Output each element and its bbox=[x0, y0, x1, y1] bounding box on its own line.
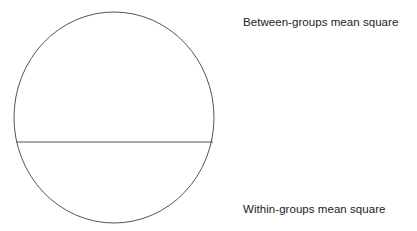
total-variance-circle bbox=[14, 12, 214, 223]
variance-partition-diagram bbox=[0, 0, 417, 231]
figure-root: Between-groups mean square Within-groups… bbox=[0, 0, 417, 231]
label-within-groups-mean-square: Within-groups mean square bbox=[243, 203, 386, 216]
label-between-groups-mean-square: Between-groups mean square bbox=[243, 16, 398, 29]
